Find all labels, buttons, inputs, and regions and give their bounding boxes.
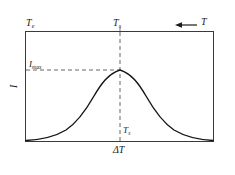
label-ts-top-sub: s xyxy=(119,22,121,29)
figure-container: Te Ts T Imax I Ts ΔT xyxy=(0,0,235,175)
label-ts-top-base: T xyxy=(113,17,119,28)
plot-frame xyxy=(25,31,214,142)
label-x-axis: ΔT xyxy=(113,145,124,155)
label-imax: Imax xyxy=(29,60,41,69)
label-imax-sub: max xyxy=(32,64,41,70)
label-te-sub: e xyxy=(32,22,35,29)
label-ts-bottom: Ts xyxy=(123,126,130,135)
label-ts-bottom-sub: s xyxy=(128,130,130,136)
arrow-left-icon xyxy=(175,21,197,29)
label-te: Te xyxy=(26,18,34,28)
label-te-base: T xyxy=(26,17,32,28)
label-ts-top: Ts xyxy=(113,18,121,28)
label-y-axis: I xyxy=(9,85,19,88)
label-t-direction: T xyxy=(201,17,207,27)
